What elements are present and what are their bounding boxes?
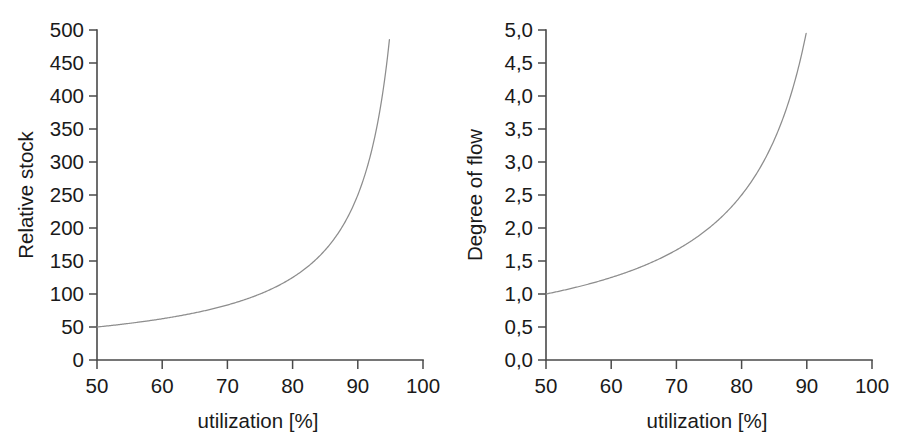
y-tick-label: 0: [73, 348, 84, 371]
y-tick-label: 0,5: [505, 315, 534, 338]
chart-panel-degree-of-flow: 0,00,51,01,52,02,53,03,54,04,55,0 506070…: [449, 0, 897, 442]
x-tick-label: 80: [281, 374, 304, 397]
right-tick-marks: [538, 30, 872, 369]
y-tick-label: 300: [50, 150, 84, 173]
y-tick-label: 1,0: [505, 282, 534, 305]
y-tick-label: 2,5: [505, 183, 534, 206]
left-x-axis-title: utilization [%]: [198, 409, 319, 432]
y-tick-label: 4,0: [505, 84, 534, 107]
left-tick-marks: [89, 30, 423, 369]
right-y-tick-labels: 0,00,51,01,52,02,53,03,54,04,55,0: [505, 18, 534, 371]
x-tick-label: 50: [86, 374, 109, 397]
y-tick-label: 200: [50, 216, 84, 239]
right-y-axis-title: Degree of flow: [463, 129, 486, 261]
degree-of-flow-curve: [546, 33, 806, 294]
y-tick-label: 100: [50, 282, 84, 305]
x-tick-label: 90: [795, 374, 818, 397]
x-tick-label: 60: [151, 374, 174, 397]
y-tick-label: 4,5: [505, 51, 534, 74]
left-x-tick-labels: 5060708090100: [86, 374, 441, 397]
x-tick-label: 60: [600, 374, 623, 397]
x-tick-label: 80: [730, 374, 753, 397]
left-y-tick-labels: 050100150200250300350400450500: [50, 18, 84, 371]
y-tick-label: 150: [50, 249, 84, 272]
y-tick-label: 3,0: [505, 150, 534, 173]
y-tick-label: 350: [50, 117, 84, 140]
y-tick-label: 1,5: [505, 249, 534, 272]
x-tick-label: 100: [855, 374, 889, 397]
y-tick-label: 0,0: [505, 348, 534, 371]
x-tick-label: 50: [535, 374, 558, 397]
chart-panel-relative-stock: 050100150200250300350400450500 506070809…: [0, 0, 448, 442]
y-tick-label: 2,0: [505, 216, 534, 239]
left-axis-lines: [97, 30, 423, 360]
x-tick-label: 70: [216, 374, 239, 397]
y-tick-label: 5,0: [505, 18, 534, 41]
right-axis-lines: [546, 30, 872, 360]
y-tick-label: 500: [50, 18, 84, 41]
left-y-axis-title: Relative stock: [14, 130, 37, 258]
right-x-axis-title: utilization [%]: [647, 409, 768, 432]
y-tick-label: 50: [61, 315, 84, 338]
y-tick-label: 400: [50, 84, 84, 107]
x-tick-label: 90: [346, 374, 369, 397]
degree-of-flow-plot: 0,00,51,01,52,02,53,03,54,04,55,0 506070…: [449, 0, 897, 442]
right-x-tick-labels: 5060708090100: [535, 374, 890, 397]
figure-container: 050100150200250300350400450500 506070809…: [0, 0, 897, 442]
relative-stock-plot: 050100150200250300350400450500 506070809…: [0, 0, 448, 442]
relative-stock-curve: [97, 40, 389, 327]
y-tick-label: 450: [50, 51, 84, 74]
y-tick-label: 250: [50, 183, 84, 206]
x-tick-label: 70: [665, 374, 688, 397]
y-tick-label: 3,5: [505, 117, 534, 140]
x-tick-label: 100: [406, 374, 440, 397]
